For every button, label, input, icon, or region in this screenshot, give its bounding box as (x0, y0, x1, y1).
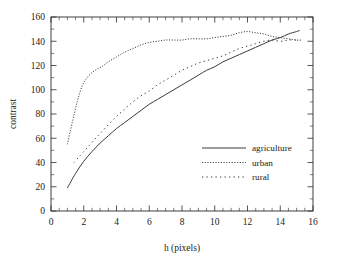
y-tick-label: 0 (40, 206, 45, 216)
y-tick-label: 140 (31, 37, 46, 47)
chart-figure: 020406080100120140160 0246810121416 h (p… (0, 0, 348, 265)
x-tick-label: 12 (243, 217, 253, 227)
x-tick-label: 14 (276, 217, 286, 227)
x-tick-label: 16 (308, 217, 318, 227)
legend-label-agriculture: agriculture (252, 143, 292, 153)
x-tick-label: 2 (81, 217, 86, 227)
y-tick-label: 80 (36, 109, 46, 119)
chart-svg: 020406080100120140160 0246810121416 h (p… (0, 0, 348, 265)
legend-label-rural: rural (252, 172, 270, 182)
y-tick-label: 160 (31, 12, 46, 22)
x-axis-title: h (pixels) (164, 243, 200, 254)
legend-label-urban: urban (252, 158, 273, 168)
y-tick-label: 120 (31, 61, 46, 71)
y-tick-label: 60 (36, 134, 46, 144)
x-tick-label: 6 (147, 217, 152, 227)
x-tick-label: 8 (180, 217, 185, 227)
y-tick-label: 100 (31, 85, 46, 95)
x-tick-label: 4 (114, 217, 119, 227)
y-tick-label: 20 (36, 182, 46, 192)
x-tick-label: 0 (49, 217, 54, 227)
y-tick-label: 40 (36, 158, 46, 168)
x-tick-label: 10 (210, 217, 220, 227)
y-axis-title: contrast (8, 99, 18, 129)
